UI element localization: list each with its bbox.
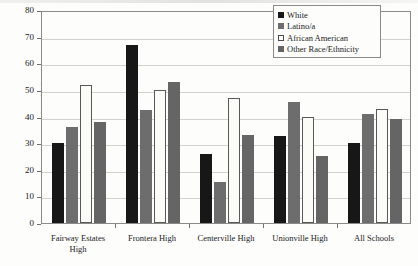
x-group-label-line: All Schools <box>337 233 411 244</box>
legend-item-label: Other Race/Ethnicity <box>287 44 359 54</box>
y-tick-label: 60 <box>12 59 34 68</box>
bar <box>362 114 375 223</box>
bar <box>94 122 107 223</box>
gridline <box>42 92 410 93</box>
bar <box>66 127 79 223</box>
bar <box>274 136 287 223</box>
y-tick-label: 30 <box>12 139 34 148</box>
x-group-label: Centerville High <box>189 233 263 244</box>
x-group-label: Unionville High <box>263 233 337 244</box>
legend-swatch-icon <box>278 23 284 29</box>
bar <box>140 110 153 223</box>
y-tick-label: 0 <box>12 219 34 228</box>
legend-item: Other Race/Ethnicity <box>278 44 380 56</box>
y-tick-label: 10 <box>12 192 34 201</box>
bar <box>390 119 403 223</box>
y-tick-label: 80 <box>12 6 34 15</box>
legend-item: White <box>278 9 380 21</box>
gridline <box>42 65 410 66</box>
x-tick-mark <box>115 224 116 228</box>
bar <box>80 85 93 223</box>
bar-chart-figure: % of Students 01020304050607080 Fairway … <box>0 0 418 266</box>
x-group-label: All Schools <box>337 233 411 244</box>
legend-swatch-icon <box>278 12 284 18</box>
legend-item-label: African American <box>287 33 348 43</box>
x-tick-mark <box>337 224 338 228</box>
x-tick-mark <box>263 224 264 228</box>
bar <box>302 117 315 224</box>
x-group-label-line: Unionville High <box>263 233 337 244</box>
bar <box>126 45 139 223</box>
bar <box>154 90 167 223</box>
bar <box>52 143 65 223</box>
legend-item-label: White <box>287 10 308 20</box>
y-tick-label: 70 <box>12 33 34 42</box>
x-group-label-line: Fairway Estates <box>41 233 115 244</box>
y-tick-mark <box>37 224 41 225</box>
legend: WhiteLatino/aAfrican AmericanOther Race/… <box>273 5 381 58</box>
bar <box>348 143 361 223</box>
y-tick-label: 40 <box>12 113 34 122</box>
bar <box>168 82 181 223</box>
bar <box>200 154 213 223</box>
bar <box>288 102 301 223</box>
bar <box>228 98 241 223</box>
legend-item: African American <box>278 32 380 44</box>
legend-swatch-icon <box>278 35 284 41</box>
x-tick-mark <box>189 224 190 228</box>
legend-item: Latino/a <box>278 21 380 33</box>
x-group-label-line: Frontera High <box>115 233 189 244</box>
x-group-label-line: Centerville High <box>189 233 263 244</box>
x-group-label: Frontera High <box>115 233 189 244</box>
x-group-label-line: High <box>41 244 115 255</box>
legend-swatch-icon <box>278 46 284 52</box>
y-tick-label: 20 <box>12 166 34 175</box>
bar <box>242 135 255 223</box>
x-group-label: Fairway EstatesHigh <box>41 233 115 255</box>
bar <box>316 156 329 223</box>
bar <box>214 182 227 223</box>
y-tick-label: 50 <box>12 86 34 95</box>
gridline <box>42 119 410 120</box>
legend-item-label: Latino/a <box>287 21 315 31</box>
scan-artifact <box>0 0 418 3</box>
bar <box>376 109 389 223</box>
